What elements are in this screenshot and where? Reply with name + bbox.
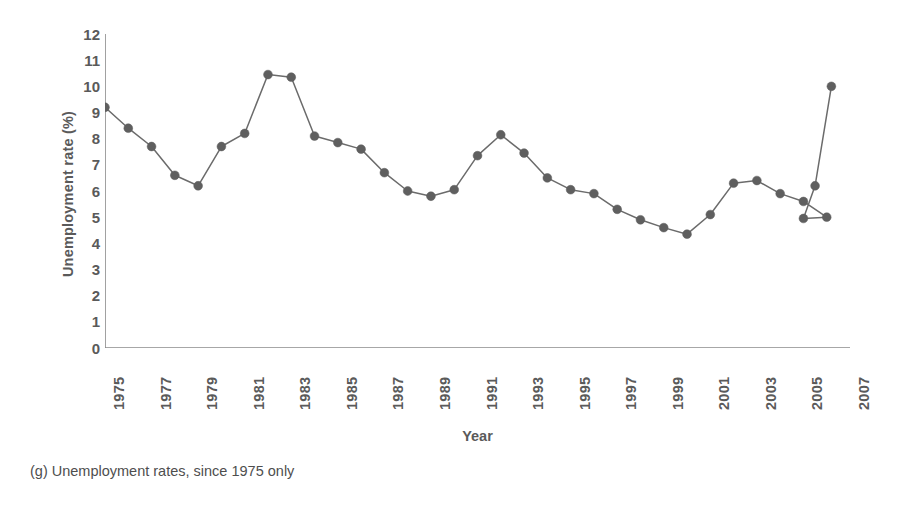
data-point <box>310 132 319 141</box>
x-tick-label: 1985 <box>344 377 360 410</box>
data-point <box>240 129 249 138</box>
x-tick-label: 1977 <box>158 377 174 410</box>
data-markers <box>105 70 836 238</box>
axis-lines <box>105 34 850 348</box>
y-tick-label: 9 <box>66 105 100 120</box>
y-tick-label: 0 <box>66 341 100 356</box>
data-point <box>752 176 761 185</box>
data-point <box>776 189 785 198</box>
y-tick-label: 12 <box>66 27 100 42</box>
data-line <box>105 75 831 235</box>
data-point <box>827 82 836 91</box>
y-tick-label: 1 <box>66 314 100 329</box>
data-point <box>636 215 645 224</box>
x-tick-label: 1987 <box>390 377 406 410</box>
x-tick-label: 2001 <box>716 377 732 410</box>
data-point <box>520 149 529 158</box>
data-point <box>706 210 715 219</box>
x-tick-label: 2007 <box>856 377 872 410</box>
x-tick-label: 1983 <box>297 377 313 410</box>
y-tick-label: 8 <box>66 131 100 146</box>
data-point <box>683 230 692 239</box>
data-point <box>403 187 412 196</box>
y-axis-tick-labels: 1211109876543210 <box>62 34 100 348</box>
y-tick-label: 6 <box>66 184 100 199</box>
y-tick-label: 11 <box>66 53 100 68</box>
data-point <box>264 70 273 79</box>
data-point <box>357 145 366 154</box>
data-point <box>799 214 808 223</box>
y-tick-label: 5 <box>66 210 100 225</box>
x-tick-label: 2005 <box>809 377 825 410</box>
plot-svg <box>105 34 850 348</box>
data-point <box>729 179 738 188</box>
data-point <box>194 181 203 190</box>
data-point <box>427 192 436 201</box>
data-point <box>811 181 820 190</box>
data-point <box>287 73 296 82</box>
y-tick-label: 2 <box>66 288 100 303</box>
data-point <box>590 189 599 198</box>
data-point <box>799 197 808 206</box>
x-tick-label: 1995 <box>577 377 593 410</box>
x-tick-label: 1993 <box>530 377 546 410</box>
y-tick-label: 10 <box>66 79 100 94</box>
x-tick-label: 2003 <box>763 377 779 410</box>
y-tick-label: 3 <box>66 262 100 277</box>
chart-figure: Unemployment rate (%) 1211109876543210 1… <box>0 0 900 514</box>
data-point <box>147 142 156 151</box>
figure-caption: (g) Unemployment rates, since 1975 only <box>30 463 294 479</box>
data-point <box>566 185 575 194</box>
x-tick-label: 1979 <box>204 377 220 410</box>
x-tick-label: 1989 <box>437 377 453 410</box>
data-point <box>659 223 668 232</box>
data-point <box>217 142 226 151</box>
data-point <box>543 174 552 183</box>
y-tick-label: 4 <box>66 236 100 251</box>
data-point <box>496 130 505 139</box>
data-point <box>170 171 179 180</box>
data-point <box>613 205 622 214</box>
data-point <box>450 185 459 194</box>
data-point <box>124 124 133 133</box>
x-tick-label: 1975 <box>111 377 127 410</box>
x-tick-label: 1997 <box>623 377 639 410</box>
x-tick-label: 1981 <box>251 377 267 410</box>
y-tick-label: 7 <box>66 157 100 172</box>
x-tick-label: 1991 <box>484 377 500 410</box>
x-tick-label: 1999 <box>670 377 686 410</box>
data-point <box>473 151 482 160</box>
data-point <box>822 213 831 222</box>
x-axis-title: Year <box>105 428 850 444</box>
data-point <box>333 138 342 147</box>
plot-area <box>105 34 850 348</box>
x-axis-tick-labels: 1975197719791981198319851987198919911993… <box>105 356 850 426</box>
data-point <box>380 168 389 177</box>
